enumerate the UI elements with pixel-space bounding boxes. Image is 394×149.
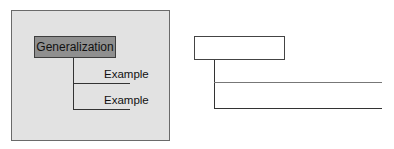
template-root-box[interactable] bbox=[194, 36, 285, 60]
example-label-1: Example bbox=[104, 68, 149, 80]
template-connector-vertical bbox=[214, 60, 215, 109]
example-connector-vertical bbox=[73, 58, 74, 110]
example-line-2 bbox=[73, 109, 130, 110]
example-label-2: Example bbox=[104, 94, 149, 106]
template-line-2[interactable] bbox=[214, 108, 382, 109]
template-line-1[interactable] bbox=[214, 82, 382, 83]
example-line-1 bbox=[73, 83, 130, 84]
generalization-box: Generalization bbox=[34, 36, 116, 58]
generalization-label: Generalization bbox=[36, 40, 113, 54]
